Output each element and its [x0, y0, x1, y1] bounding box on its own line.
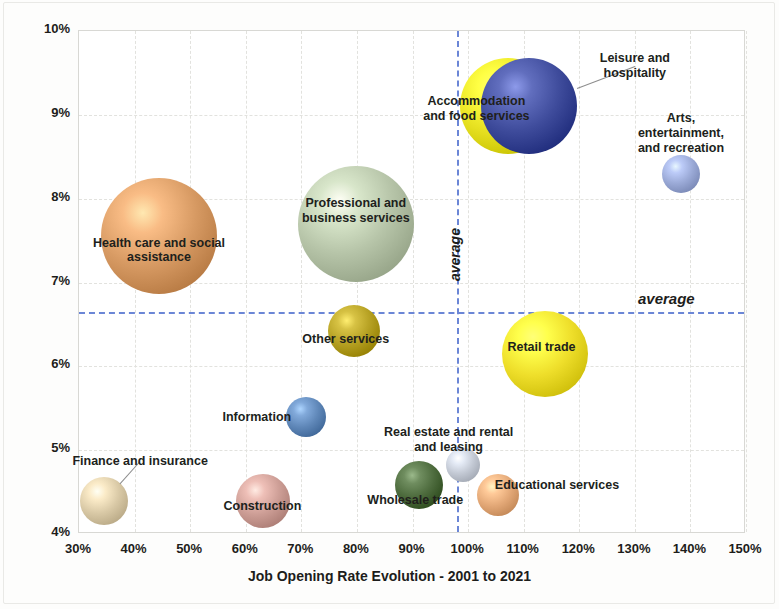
x-tick-label: 140%	[673, 541, 706, 556]
bubble-marker[interactable]	[477, 474, 519, 516]
gridline-vertical	[635, 31, 636, 532]
y-tick-label: 4%	[30, 524, 70, 539]
bubble-label: Arts, entertainment, and recreation	[638, 111, 724, 155]
gridline-vertical	[579, 31, 580, 532]
gridline-vertical	[746, 31, 747, 532]
bubble-marker[interactable]	[236, 474, 290, 528]
plot-area: averageaverage Health care and social as…	[78, 30, 745, 533]
average-line-horizontal	[79, 312, 744, 314]
x-tick-label: 90%	[398, 541, 424, 556]
x-tick-label: 130%	[617, 541, 650, 556]
x-tick-label: 100%	[450, 541, 483, 556]
x-tick-label: 50%	[176, 541, 202, 556]
x-axis-title: Job Opening Rate Evolution - 2001 to 202…	[0, 568, 779, 584]
x-tick-label: 110%	[506, 541, 539, 556]
bubble-marker[interactable]	[298, 166, 414, 282]
gridline-vertical	[413, 31, 414, 532]
bubble-marker[interactable]	[286, 397, 326, 437]
gridline-vertical	[301, 31, 302, 532]
bubble-marker[interactable]	[80, 477, 128, 525]
x-tick-label: 70%	[287, 541, 313, 556]
bubble-label: Finance and insurance	[72, 454, 207, 469]
average-label-vertical: average	[447, 228, 463, 281]
gridline-horizontal	[79, 366, 744, 367]
x-tick-label: 30%	[65, 541, 91, 556]
x-tick-label: 40%	[121, 541, 147, 556]
y-tick-label: 9%	[30, 105, 70, 120]
y-tick-label: 7%	[30, 273, 70, 288]
label-leader-line	[577, 66, 635, 89]
bubble-chart: Job Opening Rate (as a % Jobs) in 2021 J…	[0, 0, 779, 609]
y-tick-label: 8%	[30, 189, 70, 204]
gridline-horizontal	[79, 450, 744, 451]
x-tick-label: 120%	[562, 541, 595, 556]
label-leader-line	[120, 461, 141, 484]
gridline-vertical	[246, 31, 247, 532]
gridline-horizontal	[79, 115, 744, 116]
bubble-marker[interactable]	[502, 311, 588, 397]
bubble-marker[interactable]	[446, 448, 480, 482]
x-tick-label: 80%	[343, 541, 369, 556]
x-tick-label: 60%	[232, 541, 258, 556]
bubble-marker[interactable]	[662, 155, 700, 193]
y-tick-label: 10%	[30, 21, 70, 36]
bubble-marker[interactable]	[395, 461, 443, 509]
bubble-label: Information	[222, 409, 291, 424]
gridline-vertical	[690, 31, 691, 532]
y-tick-label: 5%	[30, 440, 70, 455]
bubble-marker[interactable]	[328, 305, 380, 357]
y-tick-label: 6%	[30, 356, 70, 371]
x-tick-label: 150%	[728, 541, 761, 556]
average-label-horizontal: average	[638, 290, 695, 307]
bubble-marker[interactable]	[481, 58, 577, 154]
bubble-marker[interactable]	[101, 178, 217, 294]
